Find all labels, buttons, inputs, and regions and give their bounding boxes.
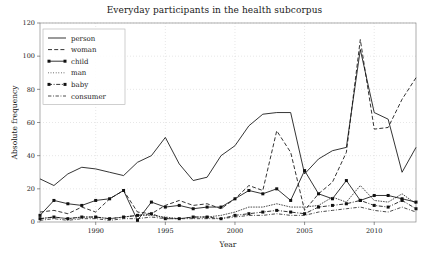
series-child [39,169,418,222]
y-tick-label: 120 [23,19,35,27]
x-tick-label: 2010 [366,227,383,235]
x-axis-ticks: 19901995200020052010 [87,222,382,235]
x-tick-label: 1990 [87,227,104,235]
x-tick-label: 2005 [296,227,313,235]
line-chart-plot: 020406080100120 19901995200020052010 Abs… [0,0,429,266]
series-man [40,186,416,219]
series-baby [39,199,418,220]
legend-label-consumer: consumer [71,93,107,101]
legend-label-woman: woman [71,46,97,54]
y-tick-label: 0 [31,218,35,226]
y-axis-label: Absolute frequency [10,85,19,161]
chart-legend: personwomanchildmanbabyconsumer [43,29,125,105]
legend-marker [64,83,67,86]
legend-label-child: child [71,58,89,66]
y-tick-label: 100 [23,52,35,60]
y-tick-label: 80 [27,86,35,94]
y-tick-label: 60 [27,119,35,127]
legend-marker [48,60,51,63]
x-tick-label: 1995 [157,227,174,235]
legend-label-person: person [71,35,96,43]
x-axis-label: Year [219,240,237,249]
y-tick-label: 40 [27,152,35,160]
legend-marker [48,83,51,86]
legend-marker [64,60,67,63]
legend-label-baby: baby [71,81,88,89]
y-axis-ticks: 020406080100120 [23,19,40,226]
y-tick-label: 20 [27,185,35,193]
legend-label-man: man [71,69,87,77]
chart-figure: Everyday participants in the health subc… [0,0,429,266]
x-tick-label: 2000 [227,227,244,235]
